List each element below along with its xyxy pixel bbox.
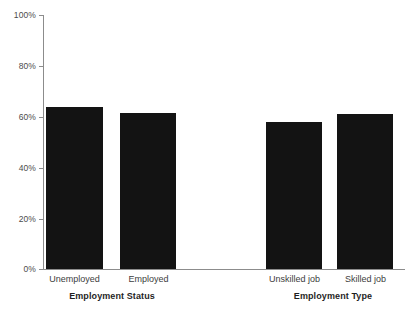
bar-chart: 100% 80% 60% 40% 20% 0% Unemployed Emplo… — [0, 0, 412, 314]
x-label-skilled-job: Skilled job — [336, 273, 395, 285]
bar-unemployed — [46, 107, 103, 269]
y-tick-100 — [39, 15, 44, 16]
y-tick-label-100: 100% — [2, 11, 36, 20]
bar-unskilled-job — [266, 122, 322, 269]
y-tick-20 — [39, 219, 44, 220]
group-label-employment-type: Employment Type — [268, 290, 398, 302]
group-label-employment-status: Employment Status — [44, 290, 180, 302]
x-label-employed: Employed — [118, 273, 179, 285]
y-tick-60 — [39, 117, 44, 118]
bar-skilled-job — [337, 114, 393, 269]
y-tick-label-20: 20% — [2, 215, 36, 224]
y-tick-label-60: 60% — [2, 113, 36, 122]
x-label-unemployed: Unemployed — [44, 273, 105, 285]
y-tick-40 — [39, 168, 44, 169]
x-axis-line — [43, 269, 405, 270]
bar-employed — [120, 113, 176, 269]
y-tick-label-0: 0% — [2, 265, 36, 274]
x-label-unskilled-job: Unskilled job — [263, 273, 326, 285]
y-tick-80 — [39, 66, 44, 67]
y-tick-label-40: 40% — [2, 164, 36, 173]
y-tick-label-80: 80% — [2, 62, 36, 71]
y-tick-0 — [39, 269, 44, 270]
y-axis-line — [43, 15, 44, 270]
